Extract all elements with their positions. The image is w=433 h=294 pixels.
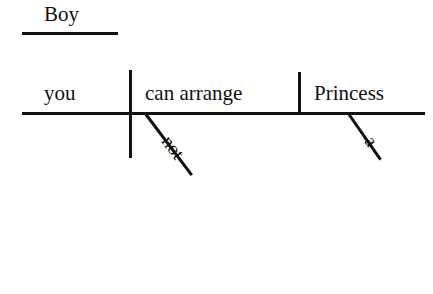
subject-word: you bbox=[44, 83, 76, 104]
main-baseline bbox=[22, 112, 425, 115]
verb-word: can arrange bbox=[145, 83, 242, 104]
subject-verb-divider bbox=[129, 70, 132, 158]
object-word: Princess bbox=[314, 83, 384, 104]
verb-object-divider bbox=[298, 72, 301, 114]
sentence-diagram-canvas: Boy you can arrange Princess not a bbox=[0, 0, 433, 294]
vocative-baseline bbox=[22, 32, 118, 35]
vocative-label: Boy bbox=[44, 4, 79, 25]
